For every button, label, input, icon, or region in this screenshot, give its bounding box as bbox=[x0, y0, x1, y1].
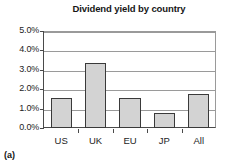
bar-slot bbox=[44, 31, 78, 128]
chart-title: Dividend yield by country bbox=[36, 3, 222, 14]
x-tick-label-jp: JP bbox=[147, 135, 181, 146]
x-tick-mark bbox=[113, 129, 114, 133]
figure-caption: (a) bbox=[4, 150, 15, 160]
y-tick-label: 1.0% bbox=[1, 103, 39, 113]
x-tick-label-uk: UK bbox=[78, 135, 112, 146]
y-tick-label: 0.0% bbox=[1, 122, 39, 132]
bar-us[interactable] bbox=[51, 98, 72, 128]
bar-slot bbox=[182, 31, 216, 128]
bar-slot bbox=[147, 31, 181, 128]
y-tick-label: 3.0% bbox=[1, 64, 39, 74]
bar-jp[interactable] bbox=[154, 113, 175, 128]
y-tick-label: 4.0% bbox=[1, 44, 39, 54]
y-tick-mark bbox=[40, 128, 44, 129]
x-tick-mark bbox=[147, 129, 148, 133]
bar-eu[interactable] bbox=[119, 98, 140, 128]
bar-slot bbox=[78, 31, 112, 128]
figure-panel-a: Dividend yield by country 0.0%1.0%2.0%3.… bbox=[0, 0, 227, 168]
x-tick-label-us: US bbox=[44, 135, 78, 146]
y-tick-label: 2.0% bbox=[1, 83, 39, 93]
x-tick-mark bbox=[182, 129, 183, 133]
bar-all[interactable] bbox=[188, 94, 209, 128]
x-tick-label-eu: EU bbox=[113, 135, 147, 146]
x-tick-mark bbox=[78, 129, 79, 133]
bar-slot bbox=[113, 31, 147, 128]
y-tick-label: 5.0% bbox=[1, 25, 39, 35]
bar-uk[interactable] bbox=[85, 63, 106, 128]
x-tick-label-all: All bbox=[182, 135, 216, 146]
bar-series bbox=[44, 31, 216, 128]
